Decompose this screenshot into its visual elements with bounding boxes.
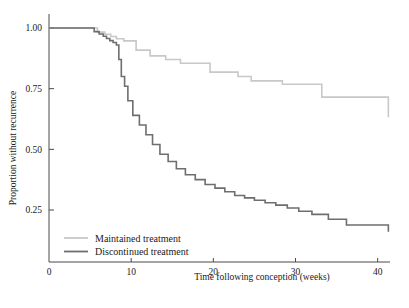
x-tick-label: 40: [373, 267, 383, 277]
series-line-maintained: [49, 28, 388, 117]
legend-label: Maintained treatment: [95, 233, 181, 244]
x-axis-title: Time following conception (weeks): [194, 272, 330, 283]
kaplan-meier-chart: 0102030400.250.500.751.00 Maintained tre…: [0, 0, 409, 308]
y-tick-label: 0.50: [25, 145, 42, 155]
series-line-discontinued: [49, 28, 388, 232]
y-tick-label: 0.75: [25, 84, 42, 94]
x-tick-label: 10: [126, 267, 136, 277]
tick-labels-group: 0102030400.250.500.751.00: [25, 23, 382, 277]
chart-svg: 0102030400.250.500.751.00 Maintained tre…: [0, 0, 409, 308]
ticks-group: [49, 28, 378, 262]
y-tick-label: 0.25: [25, 205, 42, 215]
y-tick-label: 1.00: [25, 23, 42, 33]
legend-label: Discontinued treatment: [95, 246, 189, 257]
series-group: [49, 28, 388, 232]
axes-group: [49, 14, 390, 262]
x-tick-label: 0: [47, 267, 52, 277]
chart-legend: Maintained treatmentDiscontinued treatme…: [64, 233, 189, 258]
y-axis-title: Proportion without recurrence: [8, 91, 18, 206]
